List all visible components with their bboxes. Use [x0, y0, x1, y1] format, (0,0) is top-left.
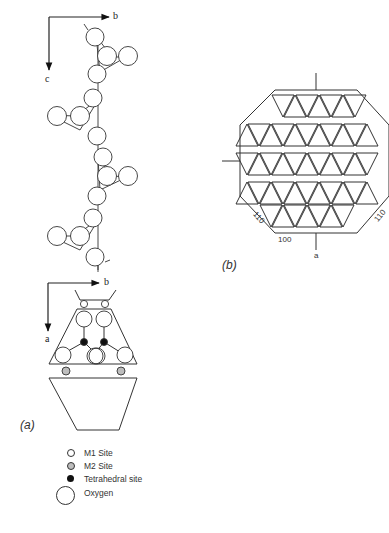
- legend: M1 Site M2 Site Tetrahedral site Oxygen: [62, 446, 142, 501]
- face-label-100: 100: [278, 236, 291, 244]
- silicate-chain: [48, 24, 138, 272]
- chain-axis-c-label: c: [45, 74, 49, 84]
- chain-axis-b-label: b: [113, 11, 118, 21]
- section-axis-a-bottom-label: a: [314, 252, 318, 260]
- section-axis-b-label: b: [104, 277, 109, 287]
- section-axis-a-label: a: [45, 334, 49, 344]
- legend-label: Tetrahedral site: [84, 474, 142, 484]
- legend-item-m2: M2 Site: [62, 459, 142, 472]
- panel-a-label: (a): [20, 419, 35, 431]
- small-filled-circle-icon: [67, 475, 74, 482]
- small-shaded-circle-icon: [67, 462, 75, 470]
- panel-b-label: (b): [222, 259, 237, 271]
- diagram-canvas: [0, 0, 389, 533]
- legend-label: M1 Site: [84, 448, 113, 458]
- legend-label: Oxygen: [84, 488, 113, 498]
- small-open-circle-icon: [67, 449, 75, 457]
- large-open-circle-icon: [56, 486, 75, 505]
- legend-item-m1: M1 Site: [62, 446, 142, 459]
- legend-item-tetrahedral: Tetrahedral site: [62, 472, 142, 485]
- triangle-grid: [236, 95, 378, 227]
- legend-label: M2 Site: [84, 461, 113, 471]
- legend-item-oxygen: Oxygen: [62, 485, 142, 501]
